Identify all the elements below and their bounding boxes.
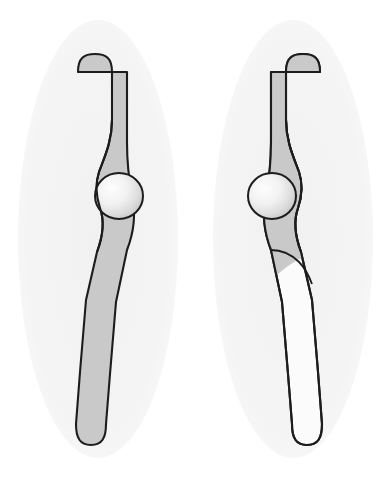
right-joint-sphere [248, 173, 296, 219]
left-figure-panel [18, 20, 178, 458]
anatomical-diagram-canvas [0, 0, 391, 477]
right-figure-panel [213, 20, 373, 458]
